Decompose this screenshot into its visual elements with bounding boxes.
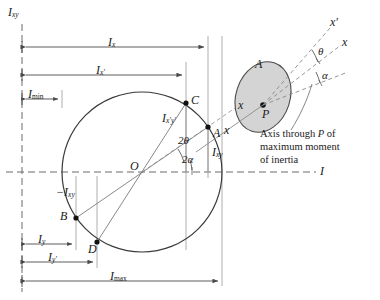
- body-axis-xprime-label: x′: [330, 16, 338, 28]
- dimension-label-Ix: Ix: [108, 36, 115, 49]
- point-label-P: P: [262, 108, 269, 120]
- body-axis-x-label: x: [342, 36, 347, 48]
- body-area-A: [226, 54, 300, 139]
- figure-canvas: Ixy I Ix Ix′ Imin Iy Iy′ Imax Ix′y′ Ixy …: [0, 0, 380, 300]
- dimension-label-Iyprime: Iy′: [48, 251, 57, 264]
- axis-note-line3: of inertia: [260, 154, 370, 167]
- point-label-D: D: [88, 243, 97, 255]
- body-inner-x-label: x: [224, 124, 229, 136]
- mohr-x-ray-label: x: [238, 99, 243, 111]
- angle-label-2theta: 2θ: [178, 135, 189, 146]
- dimension-label-Imax: Imax: [110, 270, 127, 283]
- body-area-label: A: [255, 58, 262, 70]
- segment-label-negative-Ixy: −Ixy: [56, 186, 75, 199]
- point-B: [73, 215, 78, 220]
- point-A: [205, 124, 210, 129]
- dimension-label-Iy: Iy: [38, 233, 45, 246]
- point-label-B: B: [60, 210, 67, 222]
- angle-label-alpha: α: [322, 70, 328, 81]
- dimension-label-Imin: Imin: [28, 88, 44, 101]
- point-label-C: C: [191, 94, 199, 106]
- note-leader-curve: [291, 84, 312, 130]
- point-C: [183, 100, 188, 105]
- horizontal-axis-label: I: [320, 165, 324, 177]
- axis-note: Axis through P of maximum moment of iner…: [260, 128, 370, 166]
- axis-note-line1: Axis through P of: [260, 128, 370, 141]
- segment-label-Ixprimeyprime: Ix′y′: [162, 112, 176, 125]
- point-label-O: O: [130, 160, 139, 172]
- dimension-label-Ixprime: Ix′: [96, 64, 105, 77]
- angle-label-theta: θ: [318, 46, 323, 57]
- axis-note-line2: maximum moment: [260, 141, 370, 154]
- angle-tick-theta: [316, 58, 320, 64]
- point-label-A: A: [213, 127, 220, 139]
- angle-label-2alpha: 2α: [182, 154, 193, 165]
- segment-label-Ixy: Ixy: [212, 146, 223, 159]
- vertical-axis-label: Ixy: [8, 6, 19, 19]
